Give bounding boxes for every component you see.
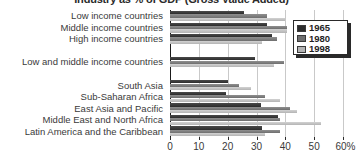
category-label-2: High income countries [69,34,163,44]
legend-label-1998: 1998 [309,44,330,54]
x-axis-label-10: 10 [193,141,204,152]
legend-label-1980: 1980 [309,34,330,44]
legend-swatch-icon-1965 [297,25,306,32]
category-label-4: South Asia [118,81,163,91]
bar-1998-cat3 [170,64,274,67]
x-axis-label-20: 20 [222,141,233,152]
legend-swatch-icon-1998 [297,46,306,53]
bar-1998-cat7 [170,122,321,125]
category-label-5: Sub-Saharan Africa [81,92,163,102]
x-tick-40 [285,137,286,140]
bar-1998-cat4 [170,87,251,90]
x-tick-30 [257,137,258,140]
x-tick-60 [343,137,344,140]
x-axis-label-30: 30 [251,141,262,152]
chart-legend: 196519801998 [293,20,348,55]
legend-swatch-icon-1980 [297,35,306,42]
x-axis-label-40: 40 [280,141,291,152]
bar-1998-cat8 [170,133,265,136]
bar-1998-cat1 [170,29,287,32]
x-tick-50 [314,137,315,140]
x-tick-0 [170,137,171,140]
x-axis-label-50: 50 [309,141,320,152]
category-label-8: Latin America and the Caribbean [25,127,163,137]
legend-item-1965: 1965 [297,23,347,33]
bar-1998-cat5 [170,99,280,102]
bar-chart: Industry as % of GDP (Gross Value Added)… [0,0,363,154]
legend-item-1980: 1980 [297,34,347,44]
bar-1998-cat6 [170,110,297,113]
x-axis-label-60: 60% [335,141,355,152]
bar-1998-cat2 [170,41,262,44]
category-label-7: Middle East and North Africa [43,115,163,125]
chart-title: Industry as % of GDP (Gross Value Added) [0,0,363,5]
category-label-0: Low income countries [71,11,163,21]
x-tick-10 [199,137,200,140]
x-axis-label-0: 0 [167,141,173,152]
x-tick-20 [228,137,229,140]
legend-label-1965: 1965 [309,23,330,33]
category-label-3: Low and middle income countries [22,57,163,67]
category-label-6: East Asia and Pacific [74,104,163,114]
category-labels: Low income countriesMiddle income countr… [0,10,167,137]
bar-1998-cat0 [170,18,285,21]
category-label-1: Middle income countries [61,23,163,33]
legend-item-1998: 1998 [297,44,347,54]
